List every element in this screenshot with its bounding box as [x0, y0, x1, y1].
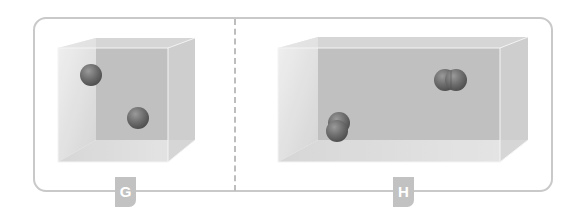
- panel-label-g: G: [115, 177, 136, 207]
- panel-label-h: H: [393, 177, 414, 207]
- atom-g-2: [127, 107, 149, 129]
- diagram-scene: [0, 0, 583, 220]
- container-box-g: [58, 38, 195, 162]
- atom-g-1: [80, 64, 102, 86]
- molecule-h-2: [434, 69, 467, 91]
- container-box-h: [278, 37, 528, 162]
